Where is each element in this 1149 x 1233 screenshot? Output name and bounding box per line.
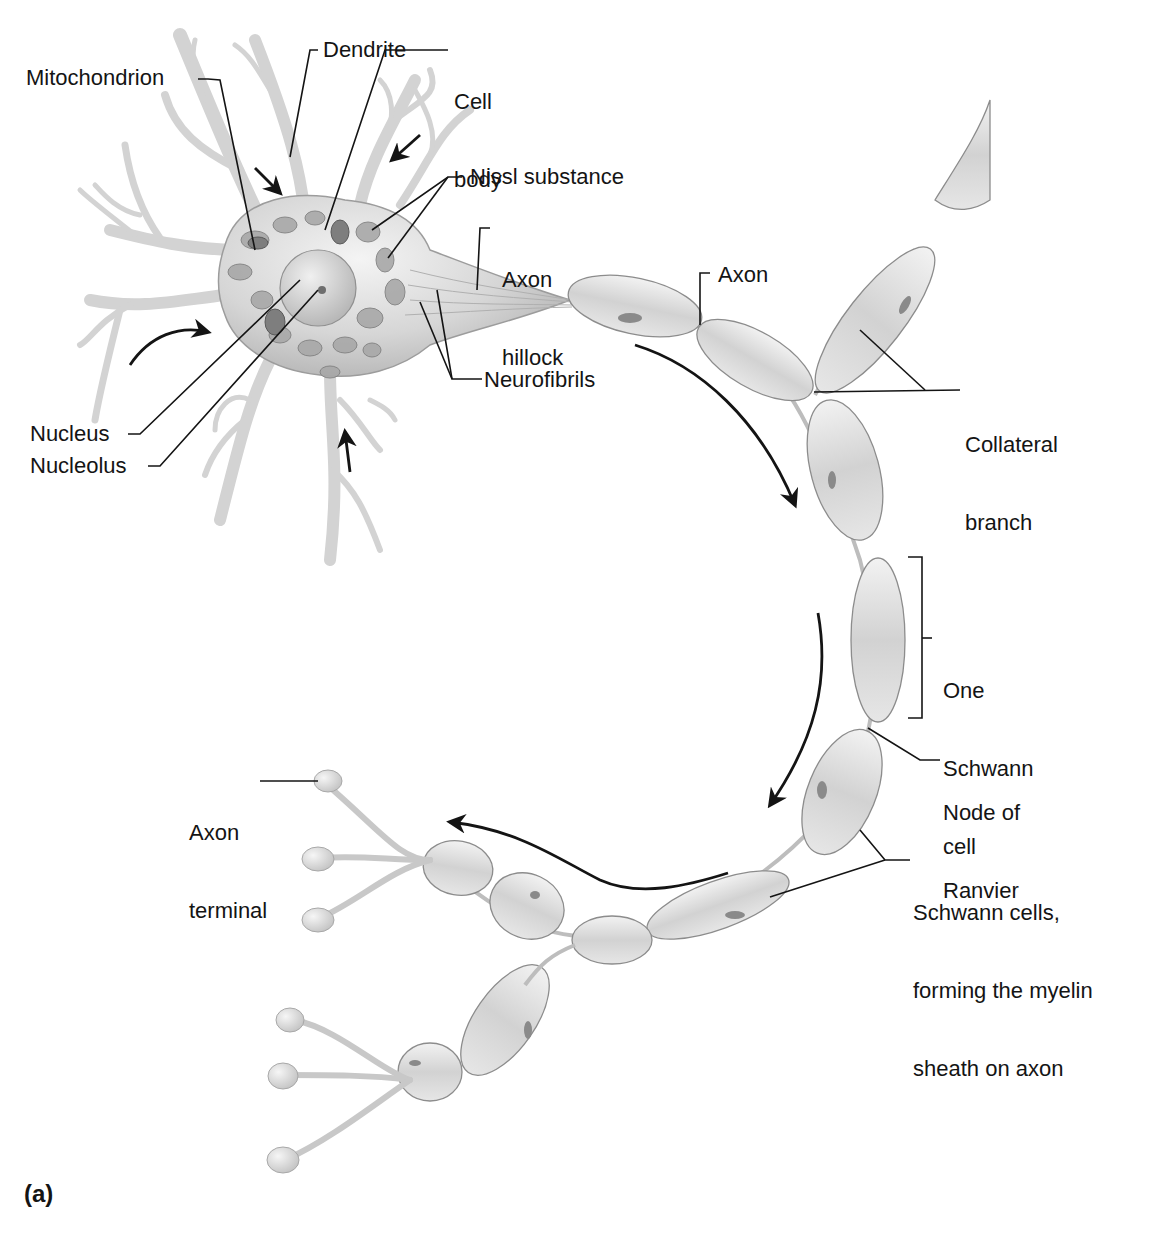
- label-collateral-branch-line2: branch: [965, 510, 1058, 536]
- label-schwann-cells-line1: Schwann cells,: [913, 900, 1093, 926]
- label-nucleolus: Nucleolus: [30, 453, 127, 479]
- label-neurofibrils: Neurofibrils: [484, 367, 595, 393]
- label-schwann-cells-myelin: Schwann cells, forming the myelin sheath…: [913, 848, 1093, 1134]
- label-node-of-ranvier-line1: Node of: [943, 800, 1020, 826]
- label-collateral-branch: Collateral branch: [965, 380, 1058, 588]
- label-nucleus: Nucleus: [30, 421, 109, 447]
- label-schwann-cells-line2: forming the myelin: [913, 978, 1093, 1004]
- arrow-icon: [392, 135, 420, 160]
- label-axon-terminal-line1: Axon: [189, 820, 267, 846]
- arrow-icon: [130, 330, 208, 365]
- label-axon-hillock-line1: Axon: [502, 267, 563, 293]
- axon-terminals: [285, 783, 430, 1160]
- label-axon: Axon: [718, 262, 768, 288]
- label-dendrite: Dendrite: [323, 37, 406, 63]
- terminal-bulbs: [267, 770, 342, 1173]
- label-cell-body: Cell body: [454, 37, 502, 245]
- nucleolus: [318, 286, 326, 294]
- label-axon-terminal-line2: terminal: [189, 898, 267, 924]
- label-collateral-branch-line1: Collateral: [965, 432, 1058, 458]
- arrow-icon: [345, 432, 350, 472]
- neuron-diagram: Mitochondrion Dendrite Cell body Nissl s…: [0, 0, 1149, 1233]
- label-mitochondrion: Mitochondrion: [26, 65, 164, 91]
- panel-label: (a): [24, 1180, 53, 1208]
- mitochondrion: [248, 237, 268, 249]
- label-cell-body-line1: Cell: [454, 89, 502, 115]
- arrow-icon: [255, 168, 280, 193]
- label-one-schwann-cell-line1: One: [943, 678, 1034, 704]
- label-axon-terminal: Axon terminal: [189, 768, 267, 976]
- label-nissl-substance: Nissl substance: [470, 164, 624, 190]
- label-schwann-cells-line3: sheath on axon: [913, 1056, 1093, 1082]
